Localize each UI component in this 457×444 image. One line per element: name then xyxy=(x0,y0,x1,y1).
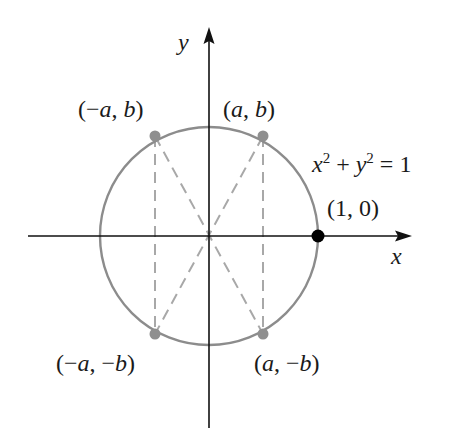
x-axis-label: x xyxy=(391,244,402,268)
point-1-0 xyxy=(312,230,325,243)
diagram-canvas xyxy=(0,0,457,444)
unit-circle-diagram: y x (−a, b) (a, b) (1, 0) (−a, −b) (a, −… xyxy=(0,0,457,444)
point-a-b xyxy=(258,131,269,142)
point-neg-a-neg-b xyxy=(150,329,161,340)
point-neg-a-b xyxy=(150,131,161,142)
circle-equation: x2 + y2 = 1 xyxy=(312,152,411,176)
equation-y: y xyxy=(356,151,367,177)
equation-x: x xyxy=(312,151,323,177)
equation-y-exponent: 2 xyxy=(366,150,374,166)
label-neg-a-neg-b: (−a, −b) xyxy=(56,351,135,375)
equation-rhs: = 1 xyxy=(374,151,412,177)
equation-plus: + xyxy=(330,151,356,177)
label-a-neg-b: (a, −b) xyxy=(254,351,320,375)
y-axis-label: y xyxy=(178,30,189,54)
point-a-neg-b xyxy=(258,329,269,340)
label-a-b: (a, b) xyxy=(223,97,275,121)
label-1-0: (1, 0) xyxy=(327,196,379,220)
label-neg-a-b: (−a, b) xyxy=(78,97,144,121)
